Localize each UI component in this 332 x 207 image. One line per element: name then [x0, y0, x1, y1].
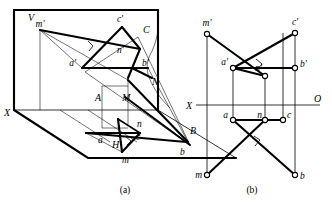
- label-h-plane: H: [111, 139, 120, 150]
- label-n-top-pictorial: n: [137, 119, 142, 129]
- label-m-top-pictorial: m: [122, 155, 129, 165]
- node-cprime: [292, 30, 297, 35]
- caption-a: (a): [120, 185, 131, 196]
- label-nprime-pictorial: n': [117, 45, 125, 55]
- node-nprime: [262, 73, 267, 78]
- label-m-ortho: m: [195, 170, 202, 180]
- label-cprime-ortho: c': [292, 17, 299, 27]
- label-x-ortho: X: [185, 100, 193, 111]
- label-b-ortho: b: [300, 171, 305, 181]
- label-a-top-pictorial: a: [98, 135, 103, 145]
- node-c-top: [280, 117, 285, 122]
- node-aprime: [230, 65, 235, 70]
- label-bprime-ortho: b': [300, 59, 308, 69]
- node-a-top: [230, 117, 235, 122]
- label-n-ortho: n: [257, 110, 262, 120]
- label-x-axis-pictorial: X: [3, 107, 11, 118]
- label-mprime-ortho: m': [203, 18, 213, 28]
- node-m-top: [204, 172, 209, 177]
- label-a-ortho: a: [223, 110, 228, 120]
- figure-container: V H X m' c' a' n' b' C N A M B a n c m b…: [0, 0, 332, 207]
- caption-b: (b): [246, 185, 257, 196]
- label-N-space: N: [151, 76, 160, 87]
- label-aprime-pictorial: a': [69, 58, 77, 68]
- label-o-ortho: O: [314, 93, 321, 104]
- label-C-space: C: [143, 24, 150, 35]
- node-mprime: [204, 31, 209, 36]
- label-cprime-pictorial: c': [117, 14, 124, 24]
- node-bprime: [292, 65, 297, 70]
- label-b-top-pictorial: b: [180, 147, 185, 157]
- label-nprime-ortho: n': [255, 63, 263, 73]
- label-A-space: A: [94, 92, 102, 103]
- label-mprime-pictorial: m': [36, 19, 46, 29]
- node-n-top: [262, 117, 267, 122]
- label-bprime-pictorial: b': [142, 58, 150, 68]
- technical-drawing-svg: V H X m' c' a' n' b' C N A M B a n c m b…: [0, 0, 332, 207]
- label-B-space: B: [190, 125, 196, 136]
- label-M-space: M: [121, 92, 131, 103]
- label-aprime-ortho: a': [221, 57, 229, 67]
- node-b-top: [292, 172, 297, 177]
